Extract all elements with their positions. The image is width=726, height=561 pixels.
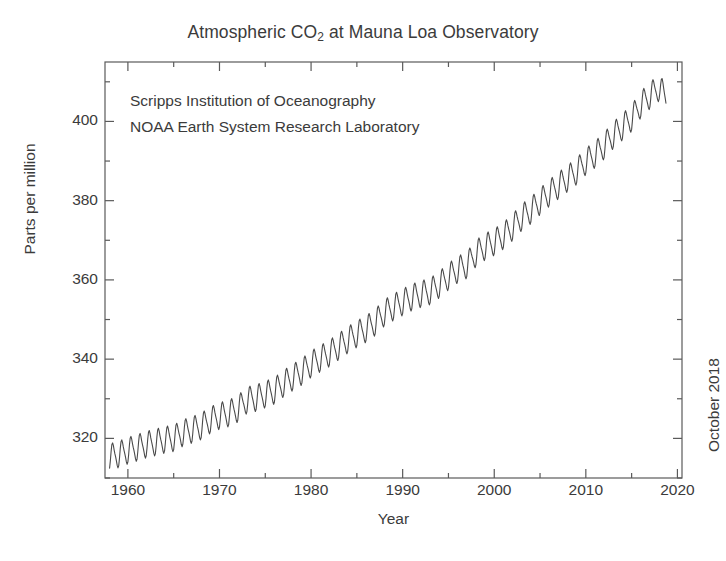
axes-frame (105, 62, 682, 478)
axis-ticks (105, 62, 682, 478)
co2-chart-figure: Atmospheric CO2 at Mauna Loa Observatory… (0, 0, 726, 561)
co2-curve (110, 79, 666, 469)
plot-area (0, 0, 726, 561)
